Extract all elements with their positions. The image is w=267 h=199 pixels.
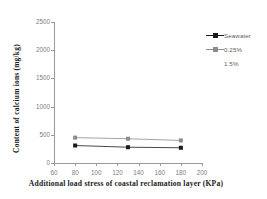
x-tick-mark [202,163,203,166]
x-tick-label: 180 [176,169,187,176]
plot-area: 05001000150020002500 6080100120140160180… [54,22,202,164]
y-tick-label: 1000 [28,103,50,110]
legend-item[interactable]: 0.25% [206,42,266,56]
data-point-marker [179,146,183,150]
y-tick-label: 500 [28,131,50,138]
x-axis-title: Additional load stress of coastal reclam… [0,179,252,188]
y-tick-label: 2500 [28,18,50,25]
y-tick-label: 2000 [28,46,50,53]
legend-item[interactable]: 1.5% [206,56,266,70]
y-tick-label: 0 [28,159,50,166]
data-point-marker [179,138,183,142]
data-point-marker [126,145,130,149]
chart-legend: Seawater0.25%1.5% [206,28,266,70]
data-point-marker [73,136,77,140]
series-2 [73,136,183,143]
legend-label: 1.5% [224,60,239,67]
x-tick-label: 60 [50,169,57,176]
chart-figure: Content of calcium ions (mg/kg) 05001000… [0,0,267,199]
legend-item[interactable]: Seawater [206,28,266,42]
x-tick-label: 120 [112,169,123,176]
legend-label: Seawater [224,32,251,39]
legend-marker-icon [206,44,224,54]
x-tick-label: 100 [91,169,102,176]
legend-label: 0.25% [224,46,242,53]
y-tick-label: 1500 [28,74,50,81]
x-tick-label: 160 [154,169,165,176]
series-1 [73,144,183,150]
x-tick-label: 200 [197,169,208,176]
series-container [54,22,202,164]
data-point-marker [73,144,77,148]
x-tick-label: 140 [133,169,144,176]
x-tick-label: 80 [72,169,79,176]
data-point-marker [126,137,130,141]
legend-marker-icon [206,30,224,40]
y-axis-title: Content of calcium ions (mg/kg) [12,19,21,179]
